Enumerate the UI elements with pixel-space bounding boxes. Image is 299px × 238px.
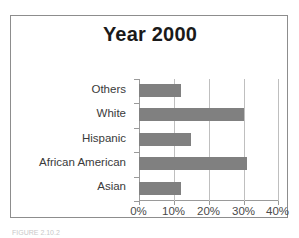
xtick-label-40: 40% <box>261 205 295 217</box>
bar-asian <box>139 182 181 195</box>
xtick-label-30: 30% <box>227 205 261 217</box>
xtick-label-10: 10% <box>157 205 191 217</box>
category-label-hispanic: Hispanic <box>82 132 126 144</box>
bar-row <box>139 128 279 152</box>
bar-others <box>139 84 181 97</box>
category-axis-labels: Others White Hispanic African American A… <box>11 79 126 201</box>
category-label-white: White <box>97 107 126 119</box>
bar-row <box>139 79 279 103</box>
plot-area <box>139 79 279 201</box>
bar-hispanic <box>139 133 192 146</box>
category-label-others: Others <box>91 83 126 95</box>
plot-region <box>129 79 279 201</box>
category-label-asian: Asian <box>97 180 126 192</box>
chart-title: Year 2000 <box>11 23 289 46</box>
chart-frame: Year 2000 Others White Hispanic African … <box>10 15 288 218</box>
figure-container: Year 2000 Others White Hispanic African … <box>0 0 299 238</box>
bar-row <box>139 152 279 176</box>
bar-row <box>139 177 279 201</box>
figure-caption: FIGURE 2.10.2 <box>12 229 132 237</box>
bar-row <box>139 103 279 127</box>
bar-white <box>139 108 244 121</box>
category-label-african-american: African American <box>39 156 126 168</box>
xtick-label-0: 0% <box>122 205 156 217</box>
bar-african-american <box>139 157 248 170</box>
xtick-label-20: 20% <box>192 205 226 217</box>
